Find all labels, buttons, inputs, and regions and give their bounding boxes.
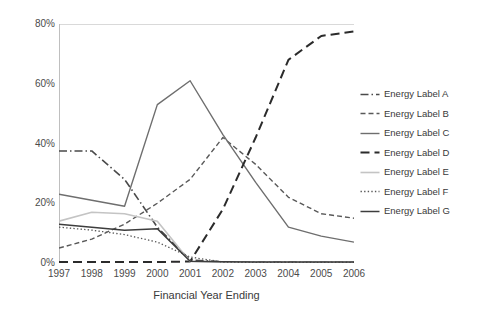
- legend-item-c[interactable]: Energy Label C: [360, 123, 478, 143]
- legend-line-swatch-icon: [360, 128, 380, 138]
- x-axis-tick-label: 2002: [206, 268, 240, 280]
- legend-line-swatch-icon: [360, 108, 380, 118]
- legend-item-g[interactable]: Energy Label G: [360, 201, 478, 221]
- x-axis-tick-label: 2005: [304, 268, 338, 280]
- legend-item-label: Energy Label B: [384, 108, 449, 119]
- series-line-e: [59, 212, 354, 262]
- x-axis-tick-label: 1997: [42, 268, 76, 280]
- y-axis-tick-label: 40%: [3, 139, 55, 149]
- legend-item-label: Energy Label D: [384, 147, 449, 158]
- legend-item-label: Energy Label C: [384, 127, 449, 138]
- legend-line-swatch-icon: [360, 206, 380, 216]
- x-axis-tick-label: 2006: [337, 268, 371, 280]
- legend-item-f[interactable]: Energy Label F: [360, 182, 478, 202]
- y-axis-tick-label: 0%: [3, 258, 55, 268]
- series-canvas: [59, 24, 354, 263]
- chart-legend: Energy Label AEnergy Label BEnergy Label…: [360, 84, 478, 221]
- legend-line-swatch-icon: [360, 147, 380, 157]
- legend-item-label: Energy Label F: [384, 186, 448, 197]
- legend-line-swatch-icon: [360, 167, 380, 177]
- chart-figure: 0%20%40%60%80% 1997199819992000200120022…: [0, 0, 478, 324]
- legend-item-e[interactable]: Energy Label E: [360, 162, 478, 182]
- legend-item-a[interactable]: Energy Label A: [360, 84, 478, 104]
- y-axis-tick-label: 80%: [3, 19, 55, 29]
- legend-item-b[interactable]: Energy Label B: [360, 104, 478, 124]
- legend-line-swatch-icon: [360, 186, 380, 196]
- legend-item-label: Energy Label E: [384, 166, 449, 177]
- x-axis-tick-labels: 1997199819992000200120022003200420052006: [59, 268, 354, 282]
- y-axis-tick-label: 20%: [3, 198, 55, 208]
- series-line-g: [59, 224, 354, 262]
- x-axis-tick-label: 2001: [173, 268, 207, 280]
- x-axis-tick-label: 2000: [140, 268, 174, 280]
- x-axis-tick-label: 1998: [75, 268, 109, 280]
- series-line-a: [59, 151, 354, 262]
- plot-area: [59, 24, 354, 263]
- x-axis-tick-label: 1999: [108, 268, 142, 280]
- legend-item-label: Energy Label G: [384, 205, 450, 216]
- legend-line-swatch-icon: [360, 89, 380, 99]
- x-axis-tick-label: 2003: [239, 268, 273, 280]
- y-axis-tick-label: 60%: [3, 79, 55, 89]
- x-axis-title: Financial Year Ending: [59, 289, 354, 301]
- legend-item-label: Energy Label A: [384, 88, 448, 99]
- x-axis-tick-label: 2004: [271, 268, 305, 280]
- legend-item-d[interactable]: Energy Label D: [360, 143, 478, 163]
